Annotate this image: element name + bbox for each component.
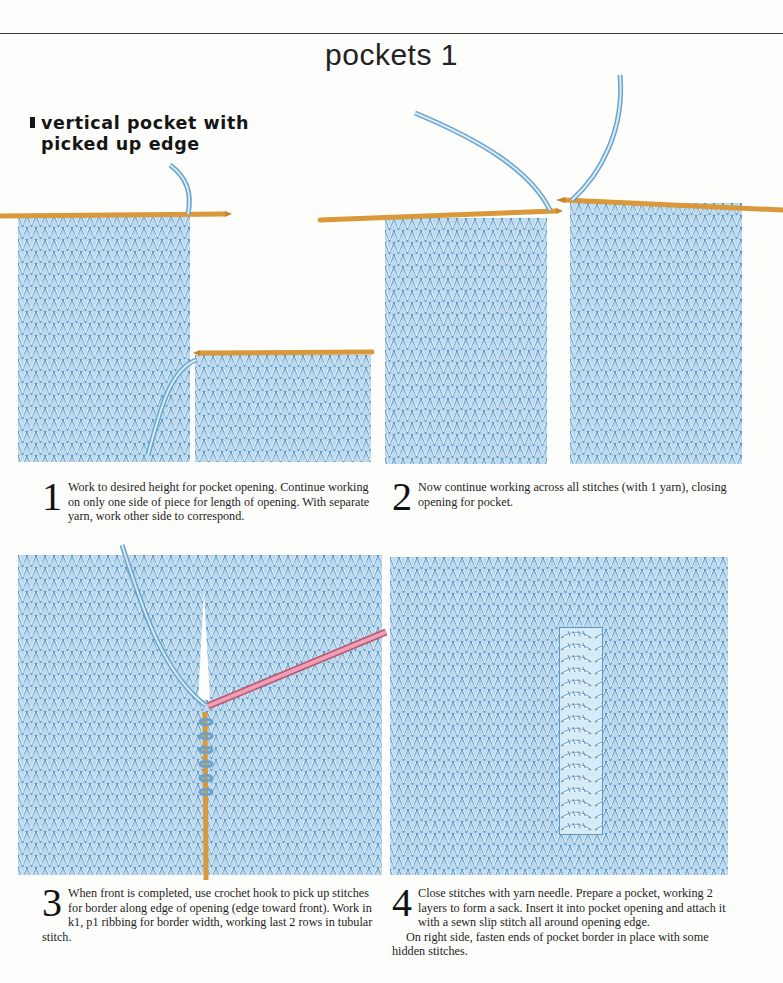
step-text: Work to desired height for pocket openin…	[42, 480, 382, 524]
step-3-caption: 3 When front is completed, use crochet h…	[42, 886, 382, 944]
step-text: Now continue working across all stitches…	[392, 480, 742, 509]
step-number: 4	[392, 888, 412, 918]
step3-fabric	[18, 555, 382, 875]
step-text-para2: On right side, fasten ends of pocket bor…	[392, 930, 732, 959]
step2-fabric-right	[570, 203, 742, 464]
top-rule	[0, 33, 783, 34]
step-1-caption: 1 Work to desired height for pocket open…	[42, 480, 382, 524]
section-heading: vertical pocket with picked up edge	[30, 113, 249, 155]
step2-fabric-left	[385, 218, 547, 464]
step-number: 2	[392, 482, 412, 512]
step1-fabric-right	[195, 355, 371, 462]
section-heading-line1: vertical pocket with	[41, 113, 249, 133]
step-2-caption: 2 Now continue working across all stitch…	[392, 480, 742, 512]
step-number: 3	[42, 888, 62, 918]
step-text-para1: Close stitches with yarn needle. Prepare…	[392, 886, 732, 930]
step1-fabric-left	[18, 215, 190, 462]
page-title: pockets 1	[0, 38, 783, 72]
square-bullet-icon	[30, 117, 35, 128]
section-heading-line2: picked up edge	[30, 134, 249, 155]
step-text: When front is completed, use crochet hoo…	[42, 886, 382, 944]
step-number: 1	[42, 482, 62, 512]
step-4-caption: 4 Close stitches with yarn needle. Prepa…	[392, 886, 732, 959]
step4-pocket-border-ribbing	[559, 627, 603, 835]
